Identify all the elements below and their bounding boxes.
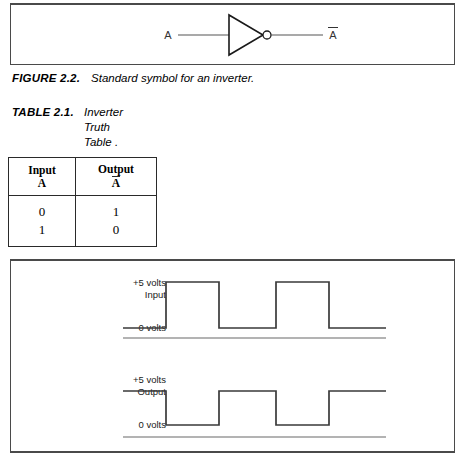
output-low-label: 0 volts	[139, 419, 167, 430]
figure-caption-text: Standard symbol for an inverter.	[91, 72, 254, 84]
table-caption-line-2: Truth	[84, 120, 123, 135]
truth-table-body: 0 1 1 0	[9, 196, 157, 247]
column-header-input: Input A	[9, 158, 76, 196]
timing-diagram-box: +5 volts Input 0 volts +5 volts Output 0…	[10, 259, 455, 453]
table-caption-line-3: Table .	[84, 135, 123, 150]
table-row: 1 0	[9, 221, 157, 247]
column-header-input-bottom: A	[38, 177, 46, 189]
input-waveform-group: +5 volts Input 0 volts	[123, 277, 386, 338]
table-caption-line-1: Inverter	[84, 105, 123, 120]
inverter-symbol-diagram: A A	[11, 5, 454, 65]
truth-table-container: Input A Output A 0 1 1 0	[8, 157, 157, 247]
output-high-label: +5 volts	[133, 374, 166, 385]
table-header-row: Input A Output A	[9, 158, 157, 196]
truth-table-head: Input A Output A	[9, 158, 157, 196]
cell-output-0: 1	[76, 196, 157, 222]
diagram-input-label: A	[164, 29, 172, 41]
diagram-output-label: A	[329, 29, 337, 41]
input-high-label: +5 volts	[133, 277, 166, 288]
column-header-output-bottom: A	[112, 176, 120, 189]
document-page: A A FIGURE 2.2.Standard symbol for an in…	[0, 0, 469, 464]
inversion-bubble-icon	[263, 31, 271, 39]
table-row: 0 1	[9, 196, 157, 222]
timing-waveform-diagram: +5 volts Input 0 volts +5 volts Output 0…	[11, 261, 454, 451]
figure-box: A A	[10, 3, 455, 65]
table-caption-label: TABLE 2.1.	[12, 105, 84, 120]
column-header-output: Output A	[76, 158, 157, 196]
table-caption-lines: Inverter Truth Table .	[84, 105, 123, 150]
column-header-input-top: Input	[28, 164, 56, 176]
input-name-label: Input	[145, 289, 166, 300]
figure-caption-label: FIGURE 2.2.	[12, 72, 80, 84]
column-header-output-top: Output	[98, 163, 134, 175]
cell-input-1: 1	[9, 221, 76, 247]
cell-output-1: 0	[76, 221, 157, 247]
output-waveform-group: +5 volts Output 0 volts	[123, 374, 386, 437]
figure-caption: FIGURE 2.2.Standard symbol for an invert…	[12, 71, 452, 85]
inverter-triangle-icon	[229, 15, 263, 55]
truth-table: Input A Output A 0 1 1 0	[8, 157, 157, 247]
cell-input-0: 0	[9, 196, 76, 222]
table-caption: TABLE 2.1. Inverter Truth Table .	[12, 105, 312, 150]
